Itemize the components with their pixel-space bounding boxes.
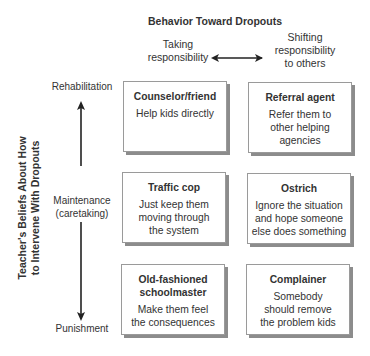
vertical-up-arrow-icon (77, 101, 85, 166)
box-description: Somebody should remove the problem kids (247, 290, 349, 329)
box-traffic-cop: Traffic cop Just keep them moving throug… (122, 172, 226, 243)
box-complainer: Complainer Somebody should remove the pr… (246, 264, 350, 335)
col-label-line: Shifting (265, 31, 345, 44)
box-description: Help kids directly (124, 107, 226, 120)
box-old-fashioned-schoolmaster: Old-fashioned schoolmaster Make them fee… (121, 264, 225, 335)
y-axis-title: Teacher's Beliefs About How to Intervene… (16, 113, 42, 303)
box-title: Old-fashioned schoolmaster (122, 273, 224, 299)
vertical-down-arrow-icon (77, 222, 85, 321)
box-title: Traffic cop (123, 181, 225, 194)
box-desc-line: moving through (123, 211, 225, 224)
y-axis-title-line: to Intervene With Dropouts (29, 113, 42, 303)
column-label-taking-responsibility: Taking responsibility (138, 38, 218, 64)
box-description: Make them feel the consequences (122, 303, 224, 329)
column-label-shifting-responsibility: Shifting responsibility to others (265, 31, 345, 70)
box-description: Just keep them moving through the system (123, 198, 225, 237)
box-desc-line: agencies (249, 134, 351, 147)
box-counselor-friend: Counselor/friend Help kids directly (123, 81, 227, 152)
box-desc-line: Help kids directly (124, 107, 226, 120)
horizontal-double-arrow-icon (211, 54, 262, 62)
box-desc-line: and hope someone (248, 212, 350, 225)
box-title: Counselor/friend (124, 90, 226, 103)
box-title: Ostrich (248, 182, 350, 195)
box-desc-line: the consequences (122, 316, 224, 329)
box-desc-line: Just keep them (123, 198, 225, 211)
row-label-line: Maintenance (40, 194, 124, 207)
box-desc-line: Ignore the situation (248, 199, 350, 212)
col-label-line: responsibility (265, 44, 345, 57)
box-title: Complainer (247, 273, 349, 286)
box-desc-line: Make them feel (122, 303, 224, 316)
row-label-rehabilitation: Rehabilitation (40, 80, 124, 93)
row-label-line: Rehabilitation (40, 80, 124, 93)
box-referral-agent: Referral agent Refer them to other helpi… (248, 82, 352, 153)
row-label-line: Punishment (40, 322, 124, 335)
box-desc-line: the problem kids (247, 316, 349, 329)
box-title: Referral agent (249, 91, 351, 104)
col-label-line: Taking (138, 38, 218, 51)
box-desc-line: Somebody (247, 290, 349, 303)
diagram-title: Behavior Toward Dropouts (0, 15, 370, 27)
box-ostrich: Ostrich Ignore the situation and hope so… (247, 173, 351, 244)
col-label-line: responsibility (138, 51, 218, 64)
row-label-punishment: Punishment (40, 322, 124, 335)
box-desc-line: Refer them to (249, 108, 351, 121)
row-label-line: (caretaking) (40, 207, 124, 220)
box-desc-line: the system (123, 224, 225, 237)
row-label-maintenance: Maintenance (caretaking) (40, 194, 124, 220)
box-description: Refer them to other helping agencies (249, 108, 351, 147)
box-desc-line: should remove (247, 303, 349, 316)
box-title-line: Old-fashioned (122, 273, 224, 286)
box-title-line: schoolmaster (122, 286, 224, 299)
box-description: Ignore the situation and hope someone el… (248, 199, 350, 238)
box-desc-line: else does something (248, 225, 350, 238)
y-axis-title-line: Teacher's Beliefs About How (16, 113, 29, 303)
col-label-line: to others (265, 57, 345, 70)
box-desc-line: other helping (249, 121, 351, 134)
